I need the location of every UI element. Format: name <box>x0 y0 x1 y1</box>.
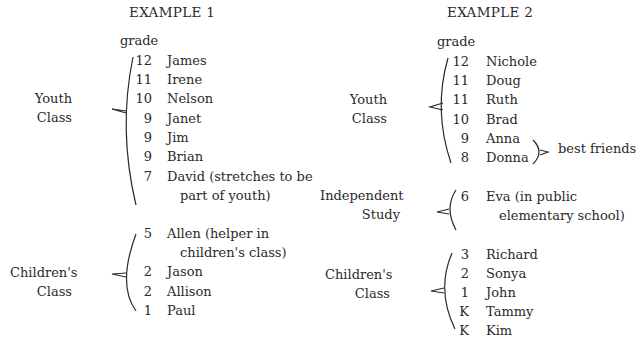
ex2-children-pointer <box>431 288 444 293</box>
student-name: Tammy <box>486 304 533 320</box>
grade: 2 <box>130 284 152 300</box>
grade: 2 <box>130 264 152 280</box>
student-name: Eva (in public <box>486 189 577 205</box>
grade: 1 <box>447 285 469 301</box>
grade: 11 <box>130 72 152 88</box>
example-1-title: EXAMPLE 1 <box>129 4 215 20</box>
group-label-children: Class <box>10 284 72 300</box>
student-name: Allen (helper in <box>167 226 269 242</box>
grade: 9 <box>447 131 469 147</box>
grade: 11 <box>447 73 469 89</box>
group-label-children: Children's <box>325 267 390 283</box>
grade: 10 <box>447 112 469 128</box>
grade: 12 <box>447 54 469 70</box>
student-note: children's class) <box>180 245 287 261</box>
student-name: Donna <box>486 150 529 166</box>
student-name: David (stretches to be <box>167 169 313 185</box>
grade: 9 <box>130 149 152 165</box>
student-name: Kim <box>486 323 512 339</box>
ex2-independent-pointer <box>437 209 449 214</box>
ex1-youth-pointer <box>112 109 126 113</box>
grade: 10 <box>130 91 152 107</box>
grade: K <box>447 304 469 320</box>
grade: 12 <box>130 53 152 69</box>
grade: 9 <box>130 130 152 146</box>
student-name: Allison <box>167 284 212 300</box>
group-label-youth: Youth <box>30 91 72 107</box>
grade: 5 <box>130 226 152 242</box>
student-name: Nichole <box>486 54 537 70</box>
student-name: Janet <box>167 111 201 127</box>
student-name: Brian <box>167 149 203 165</box>
student-note: elementary school) <box>499 208 625 224</box>
group-label-independent: Study <box>320 207 400 223</box>
grade: K <box>447 323 469 339</box>
ex1-children-pointer <box>112 273 126 277</box>
grade: 6 <box>447 189 469 205</box>
student-name: Jim <box>167 130 189 146</box>
grade-header: grade <box>120 33 158 49</box>
student-name: Anna <box>486 131 520 147</box>
student-name: Paul <box>167 303 195 319</box>
group-label-children: Children's <box>10 265 72 281</box>
student-name: John <box>486 285 516 301</box>
group-label-children: Class <box>325 286 390 302</box>
grade: 8 <box>447 150 469 166</box>
student-name: Brad <box>486 112 518 128</box>
ex2-best-friends-pointer <box>540 150 548 155</box>
example-2-title: EXAMPLE 2 <box>447 4 533 20</box>
student-name: Ruth <box>486 92 518 108</box>
student-name: Nelson <box>167 91 213 107</box>
brackets <box>0 0 641 349</box>
student-name: Sonya <box>486 266 526 282</box>
best-friends-annotation: best friends <box>558 141 636 157</box>
group-label-youth: Class <box>345 111 387 127</box>
grade: 2 <box>447 266 469 282</box>
grade: 1 <box>130 303 152 319</box>
ex2-best-friends-bracket <box>533 140 539 164</box>
student-note: part of youth) <box>180 188 271 204</box>
grade: 3 <box>447 247 469 263</box>
student-name: Doug <box>486 73 521 89</box>
grade-header: grade <box>437 34 475 50</box>
grade: 7 <box>130 169 152 185</box>
group-label-independent: Independent <box>320 188 400 204</box>
student-name: Richard <box>486 247 538 263</box>
grade: 9 <box>130 111 152 127</box>
student-name: Irene <box>167 72 202 88</box>
student-name: James <box>167 53 207 69</box>
student-name: Jason <box>167 264 203 280</box>
group-label-youth: Class <box>30 110 72 126</box>
grade: 11 <box>447 92 469 108</box>
group-label-youth: Youth <box>345 92 387 108</box>
